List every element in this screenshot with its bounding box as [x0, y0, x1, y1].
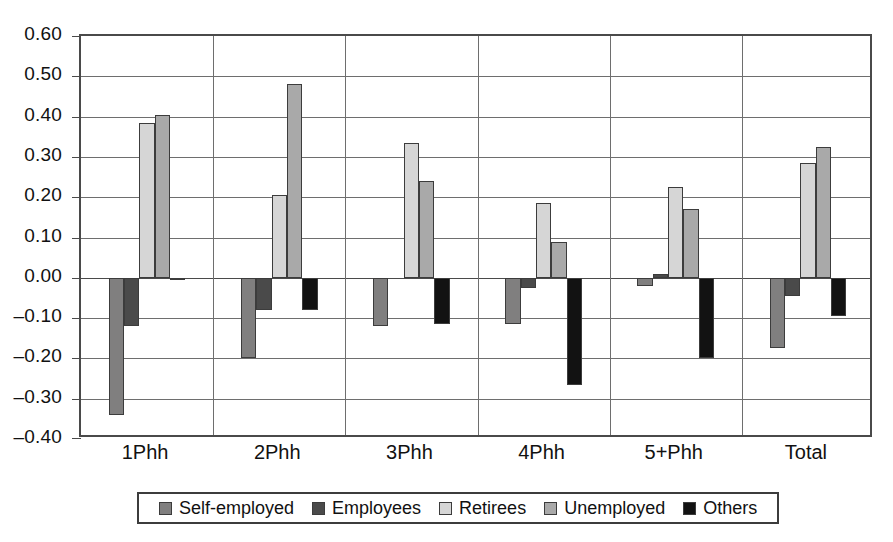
y-axis-tick [72, 36, 81, 37]
y-axis-tick [72, 157, 81, 158]
legend-swatch-icon [544, 502, 557, 515]
bar [505, 278, 520, 324]
bar [256, 278, 271, 310]
legend-swatch-icon [439, 502, 452, 515]
legend-label: Others [703, 499, 757, 517]
y-axis-tick-label: –0.30 [13, 386, 62, 408]
x-axis-tick-label: 1Phh [122, 441, 169, 464]
bar [419, 181, 434, 278]
y-axis-tick [72, 117, 81, 118]
bar [567, 278, 582, 385]
bar [155, 115, 170, 278]
bar [272, 195, 287, 278]
bar [831, 278, 846, 316]
bar [404, 143, 419, 278]
legend-label: Self-employed [179, 499, 294, 517]
legend-item[interactable]: Others [683, 499, 757, 517]
legend-item[interactable]: Employees [312, 499, 421, 517]
bar [800, 163, 815, 278]
legend-swatch-icon [683, 502, 696, 515]
legend-swatch-icon [159, 502, 172, 515]
x-axis-tick-label: 2Phh [254, 441, 301, 464]
y-axis-tick [72, 399, 81, 400]
y-axis-tick-label: 0.50 [24, 63, 62, 85]
bar [434, 278, 449, 324]
y-axis-tick-label: 0.30 [24, 144, 62, 166]
bar [699, 278, 714, 359]
y-axis-tick-label: –0.20 [13, 345, 62, 367]
bar [170, 278, 185, 280]
y-axis-tick-label: –0.10 [13, 305, 62, 327]
x-axis-tick-label: 3Phh [386, 441, 433, 464]
bar [683, 209, 698, 278]
y-axis-tick [72, 197, 81, 198]
bar [241, 278, 256, 359]
x-axis-tick-label: 4Phh [518, 441, 565, 464]
y-axis-tick [72, 318, 81, 319]
bar [785, 278, 800, 296]
y-axis-tick [72, 278, 81, 279]
x-axis-tick-label: 5+Phh [645, 441, 703, 464]
bar [373, 278, 388, 326]
bar [139, 123, 154, 278]
y-axis-tick [72, 238, 81, 239]
bar [653, 274, 668, 278]
y-axis-tick-label: 0.00 [24, 265, 62, 287]
bar [521, 278, 536, 288]
bar [816, 147, 831, 278]
bars-layer [81, 36, 870, 435]
legend-item[interactable]: Self-employed [159, 499, 294, 517]
bar-chart-figure: 0.600.500.400.300.200.100.00–0.10–0.20–0… [0, 0, 893, 542]
y-axis-tick [72, 358, 81, 359]
y-axis-tick [72, 76, 81, 77]
y-axis-tick-label: 0.10 [24, 225, 62, 247]
y-axis: 0.600.500.400.300.200.100.00–0.10–0.20–0… [0, 34, 72, 437]
legend-item[interactable]: Unemployed [544, 499, 665, 517]
y-axis-tick-label: 0.20 [24, 184, 62, 206]
x-axis-tick-label: Total [785, 441, 827, 464]
legend-label: Unemployed [564, 499, 665, 517]
y-axis-tick-label: 0.60 [24, 23, 62, 45]
bar [124, 278, 139, 326]
plot-area [79, 34, 872, 437]
chart-legend: Self-employedEmployeesRetireesUnemployed… [137, 492, 779, 524]
legend-item[interactable]: Retirees [439, 499, 526, 517]
bar [668, 187, 683, 278]
bar [302, 278, 317, 310]
bar [637, 278, 652, 286]
y-axis-tick-label: –0.40 [13, 426, 62, 448]
x-axis: 1Phh2Phh3Phh4Phh5+PhhTotal [79, 441, 872, 473]
bar [770, 278, 785, 349]
legend-label: Employees [332, 499, 421, 517]
bar [287, 84, 302, 277]
y-axis-tick-label: 0.40 [24, 104, 62, 126]
bar [536, 203, 551, 278]
legend-label: Retirees [459, 499, 526, 517]
y-axis-tick [72, 438, 81, 439]
bar [109, 278, 124, 415]
bar [551, 242, 566, 278]
legend-swatch-icon [312, 502, 325, 515]
